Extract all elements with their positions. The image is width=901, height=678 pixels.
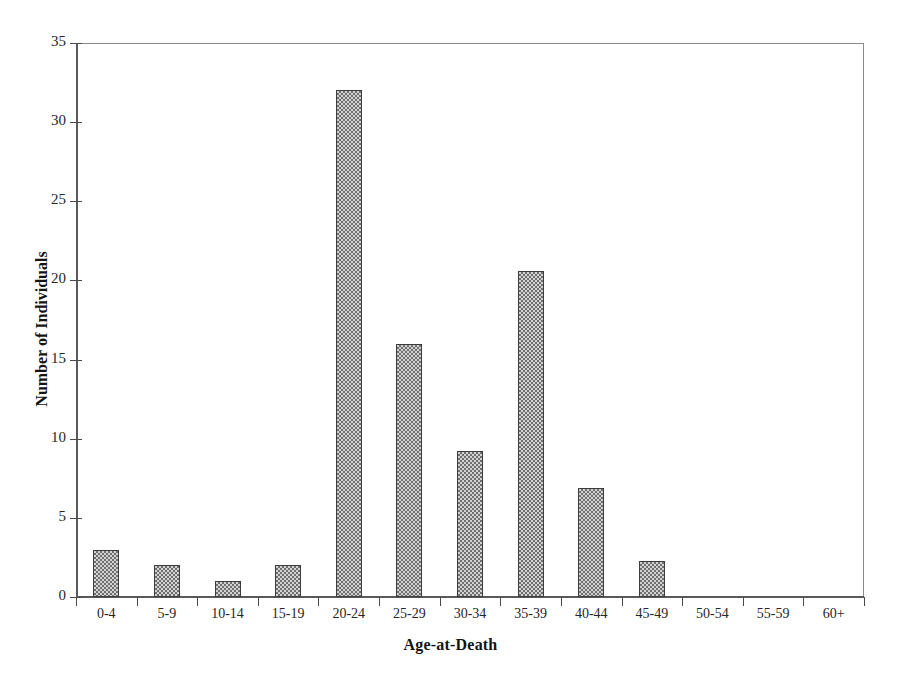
y-axis-tick [70,518,82,519]
y-axis-tick [70,122,82,123]
y-axis-tick-label: 25 [36,191,66,208]
y-axis-title: Number of Individuals [33,209,51,449]
y-axis-tick [70,43,82,44]
y-axis-tick-label: 35 [36,33,66,50]
x-axis-tick [803,597,804,606]
x-axis-tick-label: 60+ [794,606,874,622]
x-axis-tick [137,597,138,606]
bar [275,565,301,597]
x-axis-title: Age-at-Death [0,636,901,654]
x-axis-tick [622,597,623,606]
y-axis-tick [70,280,82,281]
y-axis-tick [70,439,82,440]
bar-chart: 05101520253035 0-45-910-1415-1920-2425-2… [0,0,901,678]
x-axis-tick [318,597,319,606]
bar [336,90,362,597]
x-axis-tick [197,597,198,606]
y-axis-tick-label: 5 [36,508,66,525]
x-axis-tick [76,597,77,606]
x-axis-tick [379,597,380,606]
y-axis-tick [70,201,82,202]
x-axis-tick [500,597,501,606]
y-axis-tick [70,360,82,361]
bar [93,550,119,597]
y-axis-line [76,43,78,597]
bar [154,565,180,597]
y-axis-tick-label: 0 [36,587,66,604]
bar [518,271,544,597]
bar [396,344,422,597]
y-axis-tick-label: 30 [36,112,66,129]
x-axis-tick [864,597,865,606]
x-axis-tick [561,597,562,606]
bar [215,581,241,597]
bar [457,451,483,597]
x-axis-tick [258,597,259,606]
x-axis-tick [682,597,683,606]
x-axis-tick [743,597,744,606]
x-axis-tick [440,597,441,606]
bar [578,488,604,597]
bar [639,561,665,597]
